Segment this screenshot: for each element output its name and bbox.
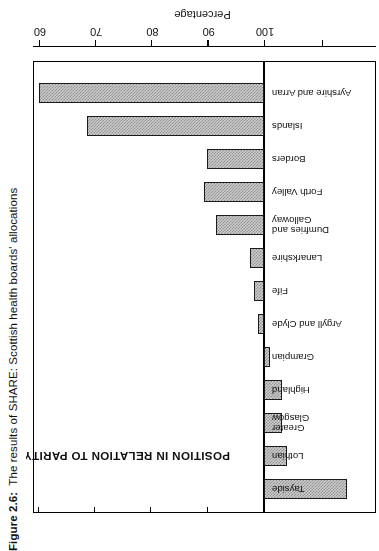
category-label-line: Islands [272,121,302,131]
category-label-line: Fife [272,286,288,296]
x-axis-tick [264,40,265,47]
top-frame-tick [263,507,264,512]
bar-row [34,182,375,202]
category-label: Grampian [272,352,314,362]
x-axis-tick-label: 100 [256,26,274,38]
category-label-line: Argyll and Clyde [272,319,342,329]
x-axis-left-stub [322,40,323,47]
bar-row [34,413,375,433]
bar-row [34,116,375,136]
bar[interactable] [216,215,264,235]
category-label: Tayside [272,484,305,494]
bar[interactable] [204,182,264,202]
figure-caption-text: The results of SHARE: Scottish health bo… [7,188,19,486]
x-axis-tick [95,40,96,47]
top-frame-tick [38,507,39,512]
bar[interactable] [264,347,270,367]
figure-caption-label: Figure 2.6: [7,492,19,551]
top-frame-tick [207,507,208,512]
category-label: Lanarkshire [272,253,322,263]
x-axis-tick-label: 70 [90,26,102,38]
category-label-line: Greater [272,423,309,433]
figure-page: Figure 2.6: The results of SHARE: Scotti… [0,0,379,551]
x-axis-tick [151,40,152,47]
category-label-line: Borders [272,154,306,164]
bar[interactable] [39,83,264,103]
chart-rotated-canvas: TaysideLothianGreaterGlasgowHighlandGram… [26,0,379,551]
category-label-line: Forth Valley [272,187,322,197]
top-frame-tick [150,507,151,512]
plot-annotation: POSITION IN RELATION TO PARITY DISTRIBUT… [26,450,230,463]
bar[interactable] [87,116,264,136]
bar-row [34,347,375,367]
bar-row [34,479,375,499]
category-label: GreaterGlasgow [272,414,309,434]
bar[interactable] [258,314,264,334]
x-axis-line [33,46,376,47]
category-label: Ayrshire and Arran [272,88,351,98]
x-axis-tick [39,40,40,47]
category-label: Argyll and Clyde [272,319,342,329]
category-label: Dumfries andGalloway [272,216,329,236]
category-label-line: Highland [272,385,310,395]
category-label-line: Grampian [272,352,314,362]
chart-region: TaysideLothianGreaterGlasgowHighlandGram… [26,0,379,551]
bar[interactable] [251,248,265,268]
x-axis-title: Percentage [26,9,379,21]
bar-row [34,248,375,268]
category-label: Forth Valley [272,187,322,197]
category-label: Highland [272,385,310,395]
plot-frame: TaysideLothianGreaterGlasgowHighlandGram… [33,61,376,513]
category-label: Islands [272,121,302,131]
top-frame-tick [94,507,95,512]
x-axis-tick-label: 80 [146,26,158,38]
figure-caption: Figure 2.6: The results of SHARE: Scotti… [0,0,26,551]
category-label-line: Lothian [272,451,303,461]
x-axis-tick [207,40,208,47]
x-axis-tick-label: 90 [203,26,215,38]
category-label: Lothian [272,451,303,461]
bar-row [34,149,375,169]
category-label-line: Dumfries and [272,225,329,235]
bar[interactable] [207,149,264,169]
category-label: Borders [272,154,306,164]
category-label-line: Tayside [272,484,305,494]
category-label-line: Lanarkshire [272,253,322,263]
bar-row [34,281,375,301]
category-label: Fife [272,286,288,296]
category-label-line: Ayrshire and Arran [272,88,351,98]
category-label-line: Galloway [272,216,329,226]
bar[interactable] [254,281,264,301]
x-axis-tick-label: 60 [34,26,46,38]
category-label-line: Glasgow [272,414,309,424]
bar-row [34,380,375,400]
